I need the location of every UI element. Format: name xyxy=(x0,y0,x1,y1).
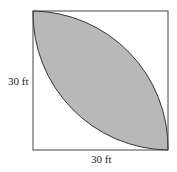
shaded-lens-region xyxy=(33,11,168,150)
left-side-label: 30 ft xyxy=(8,75,28,87)
bottom-side-label: 30 ft xyxy=(91,153,111,165)
